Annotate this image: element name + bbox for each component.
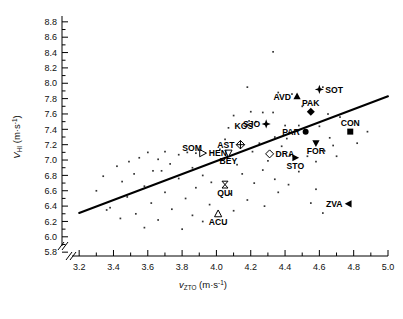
scatter-point (144, 227, 146, 229)
point-label-pak: PAK (302, 98, 320, 108)
y-tick-label: 7.0 (44, 155, 57, 165)
y-tick-label: 5.8 (44, 247, 57, 257)
point-label-kos: KOS (235, 121, 254, 131)
x-tick-label: 5.0 (382, 262, 395, 272)
scatter-point (288, 184, 290, 186)
scatter-point (109, 207, 111, 209)
scatter-point (181, 228, 183, 230)
y-tick-label: 7.4 (44, 125, 57, 135)
scatter-point (315, 161, 317, 163)
scatter-point (262, 169, 264, 171)
scatter-point (152, 170, 154, 172)
scatter-point (178, 178, 180, 180)
scatter-point (262, 112, 264, 114)
scatter-point (286, 138, 288, 140)
scatter-point (332, 145, 334, 147)
scatter-point (128, 161, 130, 163)
scatter-point (310, 202, 312, 204)
y-axis-ticks: 5.86.06.26.46.66.87.07.27.47.67.88.08.28… (44, 17, 68, 257)
scatter-point (192, 167, 194, 169)
scatter-point (202, 175, 204, 177)
y-tick-label: 8.4 (44, 48, 57, 58)
scatter-point (336, 155, 338, 157)
point-label-qui: QUI (217, 188, 232, 198)
x-tick-label: 4.8 (347, 262, 360, 272)
y-tick-label: 8.8 (44, 17, 57, 27)
scatter-point (356, 142, 358, 144)
scatter-point (315, 188, 317, 190)
scatter-point (138, 157, 140, 159)
x-axis-ticks: 3.23.43.63.84.04.24.44.64.85.0 (73, 250, 394, 272)
x-tick-label: 4.2 (244, 262, 257, 272)
highlighted-point-sot (315, 85, 324, 94)
plot-canvas: SOTAVDPAKCONPARFORSJOKOSASTSOMHENBEYDRAS… (0, 0, 403, 319)
y-tick-label: 6.4 (44, 201, 57, 211)
scatter-point (264, 205, 266, 207)
scatter-point (322, 212, 324, 214)
scatter-point (121, 181, 123, 183)
scatter-point (281, 145, 283, 147)
regression-line (79, 96, 388, 213)
point-label-bey: BEY (220, 156, 238, 166)
x-tick-label: 4.6 (313, 262, 326, 272)
scatter-point (209, 204, 211, 206)
scatter-point (161, 170, 163, 172)
scatter-point (329, 137, 331, 139)
scatter-point (195, 187, 197, 189)
scatter-point (247, 86, 249, 88)
y-tick-label: 8.6 (44, 32, 57, 42)
scatter-point (202, 221, 204, 223)
scatter-point (192, 215, 194, 217)
scatter-point (228, 127, 230, 129)
scatter-point (164, 151, 166, 153)
scatter-point (210, 181, 212, 183)
scatter-point (120, 218, 122, 220)
scatter-point (116, 165, 118, 167)
point-label-sot: SOT (325, 85, 343, 95)
point-label-con: CON (341, 118, 360, 128)
scatter-point (298, 171, 300, 173)
scatter-point (252, 151, 254, 153)
scatter-point (274, 136, 276, 138)
scatter-point (126, 196, 128, 198)
y-tick-label: 6.2 (44, 217, 57, 227)
highlighted-point-sjo (262, 119, 271, 128)
scatter-point (171, 208, 173, 210)
x-tick-label: 4.0 (210, 262, 223, 272)
highlighted-point-dra (266, 150, 274, 158)
point-label-dra: DRA (276, 149, 295, 159)
highlighted-point-con (347, 129, 353, 135)
scatter-point (135, 213, 137, 215)
scatter-point (322, 86, 324, 88)
scatter-point (233, 210, 235, 212)
x-tick-label: 3.4 (107, 262, 120, 272)
scatter-plot-figure: SOTAVDPAKCONPARFORSJOKOSASTSOMHENBEYDRAS… (0, 0, 403, 319)
highlighted-point-par (303, 129, 309, 135)
scatter-point (319, 125, 321, 127)
scatter-point (267, 160, 269, 162)
x-tick-label: 3.8 (176, 262, 189, 272)
scatter-point (367, 131, 369, 133)
y-tick-label: 7.6 (44, 109, 57, 119)
y-tick-label: 8.2 (44, 63, 57, 73)
x-axis-title: vZTO (m·s-1) (179, 279, 227, 292)
scatter-point (169, 163, 171, 165)
scatter-point (150, 202, 152, 204)
highlighted-point-zva (345, 200, 352, 207)
scatter-point (157, 219, 159, 221)
scatter-point (291, 93, 293, 95)
scatter-point (250, 111, 252, 113)
y-tick-label: 8.0 (44, 78, 57, 88)
highlighted-point-pak (307, 108, 315, 116)
point-label-avd: AVD (274, 92, 292, 102)
point-label-sto: STO (287, 161, 305, 171)
scatter-point (164, 191, 166, 193)
y-tick-label: 6.6 (44, 186, 57, 196)
scatter-point (274, 178, 276, 180)
x-tick-label: 3.2 (73, 262, 86, 272)
highlighted-point-avd (293, 93, 300, 100)
scatter-point (147, 152, 149, 154)
highlighted-point-ast (236, 140, 244, 148)
scatter-point (327, 113, 329, 115)
scatter-point (241, 173, 243, 175)
